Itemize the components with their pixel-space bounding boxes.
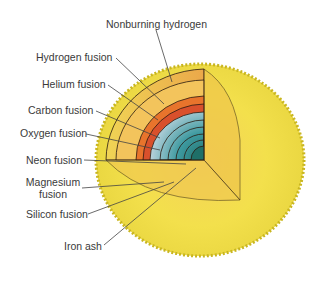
- label-nonburning-hydrogen: Nonburning hydrogen: [106, 18, 207, 30]
- label-magnesium-fusion-line1: Magnesium: [24, 176, 82, 188]
- star-cross-section: [0, 0, 322, 284]
- label-iron-ash: Iron ash: [64, 240, 102, 252]
- label-oxygen-fusion: Oxygen fusion: [20, 127, 87, 139]
- label-carbon-fusion: Carbon fusion: [28, 104, 93, 116]
- label-hydrogen-fusion: Hydrogen fusion: [36, 51, 112, 63]
- label-magnesium-fusion-line2: fusion: [24, 188, 82, 200]
- label-silicon-fusion: Silicon fusion: [26, 208, 88, 220]
- label-helium-fusion: Helium fusion: [42, 78, 106, 90]
- label-neon-fusion: Neon fusion: [26, 154, 82, 166]
